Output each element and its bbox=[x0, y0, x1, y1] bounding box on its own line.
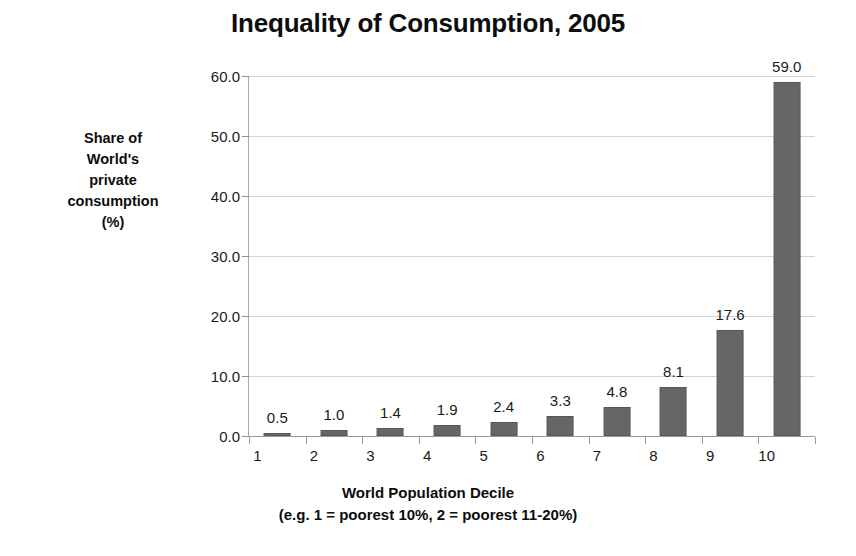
y-axis-tick-mark bbox=[242, 436, 249, 437]
y-axis-tick-label: 30.0 bbox=[170, 248, 240, 265]
bar-decile-4[interactable] bbox=[434, 425, 461, 436]
bar-slot: 1.0 bbox=[306, 76, 363, 436]
x-axis-tick-label-4: 4 bbox=[407, 447, 447, 464]
y-axis-title-line-5: (%) bbox=[38, 212, 188, 233]
bar-slot: 1.9 bbox=[419, 76, 476, 436]
x-axis-tick-label-2: 2 bbox=[294, 447, 334, 464]
x-axis-tick-mark bbox=[589, 437, 590, 444]
bar-value-label-2: 1.0 bbox=[323, 406, 344, 423]
y-axis-tick-mark bbox=[242, 376, 249, 377]
y-axis-tick-label: 50.0 bbox=[170, 128, 240, 145]
plot-area: 0.51.01.41.92.43.34.88.117.659.0 bbox=[249, 76, 815, 436]
y-axis-tick-label: 60.0 bbox=[170, 68, 240, 85]
x-axis-tick-label-1: 1 bbox=[237, 447, 277, 464]
y-axis-tick-label: 40.0 bbox=[170, 188, 240, 205]
x-axis-tick-mark bbox=[532, 437, 533, 444]
y-axis-tick-mark bbox=[242, 256, 249, 257]
x-axis-subtitle-note: (e.g. 1 = poorest 10%, 2 = poorest 11-20… bbox=[0, 506, 856, 523]
x-axis-tick-mark bbox=[702, 437, 703, 444]
x-axis-tick-label-7: 7 bbox=[577, 447, 617, 464]
bar-decile-8[interactable] bbox=[660, 387, 687, 436]
bar-slot: 4.8 bbox=[589, 76, 646, 436]
bar-value-label-9: 17.6 bbox=[715, 306, 744, 323]
x-axis-tick-mark bbox=[758, 437, 759, 444]
x-axis-tick-label-6: 6 bbox=[520, 447, 560, 464]
y-axis-tick-label: 20.0 bbox=[170, 308, 240, 325]
bar-value-label-5: 2.4 bbox=[493, 398, 514, 415]
bar-slot: 17.6 bbox=[702, 76, 759, 436]
bar-slot: 3.3 bbox=[532, 76, 589, 436]
x-axis-tick-label-9: 9 bbox=[690, 447, 730, 464]
bar-decile-2[interactable] bbox=[320, 430, 347, 436]
y-axis-tick-mark bbox=[242, 136, 249, 137]
x-axis-tick-label-10: 10 bbox=[747, 447, 787, 464]
x-axis-tick-mark bbox=[419, 437, 420, 444]
bar-decile-6[interactable] bbox=[547, 416, 574, 436]
x-axis-tick-mark bbox=[249, 437, 250, 444]
bar-value-label-7: 4.8 bbox=[606, 383, 627, 400]
y-axis-tick-mark bbox=[242, 196, 249, 197]
x-axis-tick-mark bbox=[362, 437, 363, 444]
y-axis-title-line-3: private bbox=[38, 170, 188, 191]
bar-decile-5[interactable] bbox=[490, 422, 517, 436]
y-axis-tick-label: 10.0 bbox=[170, 368, 240, 385]
bar-slot: 0.5 bbox=[249, 76, 306, 436]
x-axis-tick-mark bbox=[645, 437, 646, 444]
y-axis-title: Share of World's private consumption (%) bbox=[38, 128, 188, 233]
x-axis-tick-label-8: 8 bbox=[634, 447, 674, 464]
bar-decile-1[interactable] bbox=[264, 433, 291, 436]
bar-value-label-1: 0.5 bbox=[267, 409, 288, 426]
y-axis-title-line-4: consumption bbox=[38, 191, 188, 212]
bar-slot: 1.4 bbox=[362, 76, 419, 436]
x-axis-tick-label-5: 5 bbox=[464, 447, 504, 464]
x-axis-tick-mark bbox=[475, 437, 476, 444]
y-axis-tick-mark bbox=[242, 316, 249, 317]
chart-title: Inequality of Consumption, 2005 bbox=[0, 8, 856, 39]
y-axis-title-line-1: Share of bbox=[38, 128, 188, 149]
bar-value-label-10: 59.0 bbox=[772, 58, 801, 75]
x-axis-tick-mark bbox=[815, 437, 816, 444]
bar-slot: 2.4 bbox=[475, 76, 532, 436]
bar-slot: 59.0 bbox=[758, 76, 815, 436]
x-axis-title: World Population Decile bbox=[0, 484, 856, 501]
bar-value-label-4: 1.9 bbox=[437, 401, 458, 418]
y-axis-tick-label: 0.0 bbox=[170, 428, 240, 445]
bar-value-label-8: 8.1 bbox=[663, 363, 684, 380]
bar-value-label-6: 3.3 bbox=[550, 392, 571, 409]
y-axis-tick-labels: 0.010.020.030.040.050.060.0 bbox=[170, 0, 240, 556]
x-axis-tick-label-3: 3 bbox=[351, 447, 391, 464]
bar-value-label-3: 1.4 bbox=[380, 404, 401, 421]
bar-slot: 8.1 bbox=[645, 76, 702, 436]
bar-decile-7[interactable] bbox=[603, 407, 630, 436]
bar-decile-3[interactable] bbox=[377, 428, 404, 436]
bar-decile-9[interactable] bbox=[717, 330, 744, 436]
x-axis-tick-mark bbox=[306, 437, 307, 444]
bar-decile-10[interactable] bbox=[773, 82, 800, 436]
y-axis-title-line-2: World's bbox=[38, 149, 188, 170]
y-axis-tick-mark bbox=[242, 76, 249, 77]
